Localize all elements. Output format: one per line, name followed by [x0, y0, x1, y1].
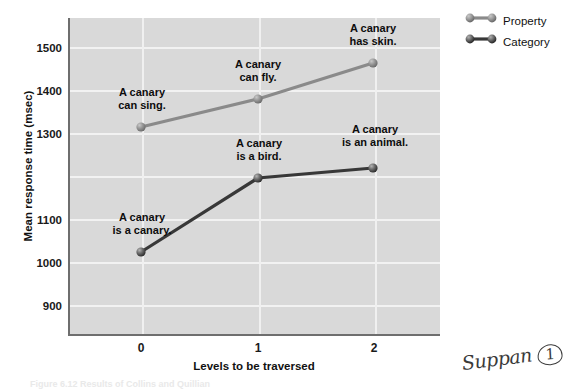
signature-text: Suppan	[461, 344, 533, 374]
point-label-category-0: A canary is a canary.	[93, 211, 191, 237]
figure-chart-response-time: 1500 1400 1300 1100 1000 900 Mean respon…	[0, 0, 575, 392]
point-label-category-1: A canary is a bird.	[211, 137, 307, 163]
handwritten-signature: Suppan1	[461, 340, 564, 376]
legend: Property Category	[462, 10, 572, 52]
y-tick-900: 900	[20, 301, 62, 313]
point-label-category-2: A canary is an animal.	[323, 123, 427, 149]
y-tick-1000: 1000	[20, 258, 62, 270]
gridline-900	[70, 305, 440, 307]
point-label-property-1: A canary can fly.	[212, 58, 304, 84]
gridline-x-2	[375, 18, 377, 334]
point-label-property-2: A canary has skin.	[327, 22, 419, 48]
point-label-property-0: A canary can sing.	[96, 86, 188, 112]
legend-swatch-category	[462, 35, 498, 49]
legend-swatch-property	[462, 14, 498, 28]
x-tick-0: 0	[121, 341, 161, 355]
y-tick-1500: 1500	[20, 43, 62, 55]
legend-label-property: Property	[503, 15, 546, 27]
x-tick-1: 1	[238, 341, 278, 355]
legend-item-category[interactable]: Category	[462, 31, 572, 52]
gridline-1000	[70, 262, 440, 264]
legend-label-category: Category	[503, 36, 550, 48]
figure-caption: Figure 6.12 Results of Collins and Quill…	[30, 379, 210, 389]
legend-item-property[interactable]: Property	[462, 10, 572, 31]
y-axis-title: Mean response time (msec)	[22, 76, 34, 256]
x-axis-title: Levels to be traversed	[68, 360, 440, 372]
gridline-1200	[70, 176, 440, 178]
x-tick-2: 2	[354, 341, 394, 355]
circled-number-mark: 1	[537, 344, 563, 366]
gridline-x-0	[142, 18, 144, 334]
